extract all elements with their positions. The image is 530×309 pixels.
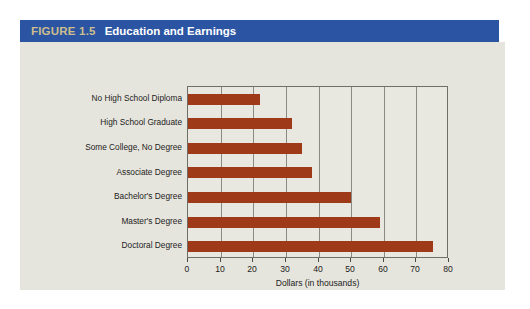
tick-mark	[448, 258, 449, 262]
tick-mark	[350, 258, 351, 262]
bar-row	[188, 112, 449, 137]
tick-mark	[285, 258, 286, 262]
category-label: Associate Degree	[32, 167, 182, 177]
tick-label: 30	[270, 264, 300, 274]
bar-row	[188, 87, 449, 112]
tick-mark	[187, 258, 188, 262]
tick-label: 60	[368, 264, 398, 274]
tick-label: 40	[303, 264, 333, 274]
bar-chart: No High School DiplomaHigh School Gradua…	[20, 42, 505, 290]
figure-block: FIGURE 1.5 Education and Earnings No Hig…	[20, 20, 505, 290]
tick-mark	[383, 258, 384, 262]
bar-row	[188, 210, 449, 235]
tick-mark	[252, 258, 253, 262]
bar	[188, 241, 433, 252]
bar-row	[188, 136, 449, 161]
bar	[188, 167, 312, 178]
bars-layer	[188, 87, 447, 257]
plot-area	[187, 86, 448, 258]
tick-mark	[318, 258, 319, 262]
category-label: Doctoral Degree	[32, 240, 182, 250]
bar-row	[188, 161, 449, 186]
bar	[188, 192, 351, 203]
tick-label: 80	[433, 264, 463, 274]
tick-label: 0	[172, 264, 202, 274]
bar-row	[188, 185, 449, 210]
tick-label: 70	[400, 264, 430, 274]
category-label: Some College, No Degree	[32, 142, 182, 152]
figure-body: No High School DiplomaHigh School Gradua…	[20, 42, 505, 290]
bar-row	[188, 234, 449, 259]
figure-number: FIGURE 1.5	[31, 25, 96, 37]
bar	[188, 217, 380, 228]
tick-mark	[415, 258, 416, 262]
figure-header: FIGURE 1.5 Education and Earnings	[20, 20, 499, 42]
category-label: High School Graduate	[32, 117, 182, 127]
bar	[188, 143, 302, 154]
tick-mark	[220, 258, 221, 262]
tick-label: 10	[205, 264, 235, 274]
category-label: Master's Degree	[32, 216, 182, 226]
category-label: No High School Diploma	[32, 93, 182, 103]
x-axis-title: Dollars (in thousands)	[187, 278, 448, 288]
bar	[188, 118, 292, 129]
tick-label: 20	[237, 264, 267, 274]
category-label: Bachelor's Degree	[32, 191, 182, 201]
bar	[188, 94, 260, 105]
tick-label: 50	[335, 264, 365, 274]
figure-title: Education and Earnings	[105, 25, 237, 37]
